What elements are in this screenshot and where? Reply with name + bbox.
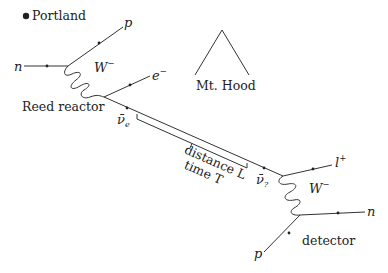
lepton-charge: − — [160, 66, 167, 76]
boson-charge: − — [322, 179, 329, 189]
detector-neutron-label: n — [367, 204, 375, 219]
arrow-dot-icon — [126, 107, 129, 110]
source-proton-label: p — [124, 15, 133, 30]
arrow-dot-icon — [98, 42, 101, 45]
detector-label: detector — [302, 233, 355, 248]
neutrino-symbol: ν̄ — [256, 172, 264, 187]
detector-neutron-line — [300, 212, 365, 215]
detector-proton-line — [264, 215, 300, 252]
arrow-dot-icon — [263, 167, 266, 170]
detector-lepton-line — [283, 165, 332, 176]
city-label: Portland — [32, 8, 86, 23]
detector-proton-label: p — [254, 246, 263, 261]
source-electron-line — [104, 76, 150, 97]
arrow-dot-icon — [288, 232, 291, 235]
mountain-icon — [195, 30, 249, 75]
neutrino-propagation: ν̄e ν̄? distance L time T — [104, 97, 283, 195]
arrow-dot-icon — [129, 84, 132, 87]
mountain-marker: Mt. Hood — [195, 30, 256, 93]
distance-time-annotation: distance L time T — [177, 142, 249, 195]
neutrino-symbol: ν̄ — [117, 112, 125, 127]
arrow-dot-icon — [337, 212, 340, 215]
portland-marker: Portland — [23, 8, 86, 23]
detector-w-boson-line — [279, 176, 300, 215]
source-neutron-label: n — [14, 59, 22, 74]
city-dot-icon — [23, 13, 29, 19]
neutrino-oscillation-diagram: Portland Mt. Hood n p W− e− Reed reactor — [0, 0, 388, 273]
neutrino-flavor: e — [125, 120, 130, 129]
source-vertex: n p W− e− Reed reactor — [14, 15, 167, 114]
arrow-dot-icon — [312, 168, 315, 171]
detector-vertex: l+ W− n p detector — [254, 153, 375, 261]
detector-lepton-label: l+ — [335, 153, 346, 170]
detector-neutrino-label: ν̄? — [256, 172, 269, 189]
detector-w-boson-label: W− — [309, 179, 330, 196]
source-w-boson-label: W− — [94, 58, 115, 75]
mountain-label: Mt. Hood — [196, 78, 256, 93]
boson-charge: − — [107, 58, 114, 68]
source-neutrino-label: ν̄e — [117, 112, 130, 129]
lepton-charge: + — [339, 153, 346, 163]
arrow-dot-icon — [46, 65, 49, 68]
source-label: Reed reactor — [22, 99, 105, 114]
source-electron-label: e− — [152, 66, 167, 83]
neutrino-flavor: ? — [264, 180, 269, 189]
